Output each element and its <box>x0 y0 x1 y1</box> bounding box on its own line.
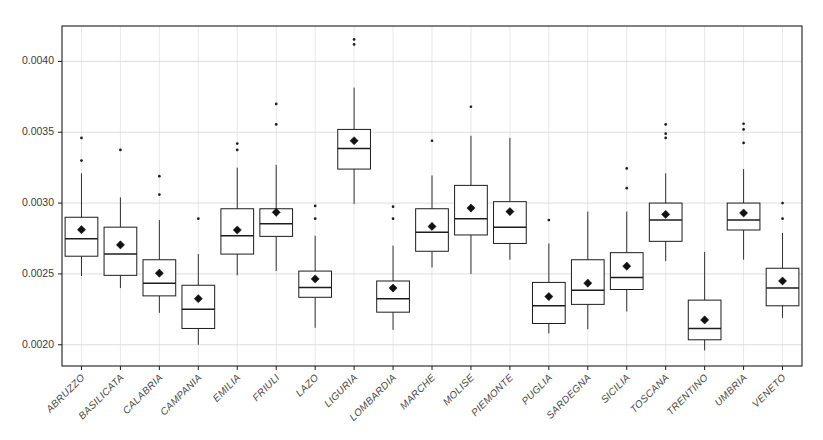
y-tick-label-4: 0.0040 <box>22 54 54 66</box>
outlier-point-1 <box>158 175 161 178</box>
box-iqr <box>649 203 682 241</box>
x-category-label-molise: MOLISE <box>441 372 477 408</box>
outlier-point-1 <box>664 132 667 135</box>
x-category-label-veneto: VENETO <box>750 372 788 410</box>
box-iqr <box>766 268 799 306</box>
y-tick-label-0: 0.0020 <box>22 338 54 350</box>
outlier-point-0 <box>236 149 239 152</box>
box-group-trentino[interactable] <box>688 252 721 350</box>
outlier-point-0 <box>80 159 83 162</box>
x-category-label-emilia: EMILIA <box>210 372 242 404</box>
outlier-point-1 <box>625 167 628 170</box>
box-iqr <box>65 217 98 256</box>
box-iqr <box>143 260 176 296</box>
box-group-sicilia[interactable] <box>610 167 643 311</box>
outlier-point-2 <box>664 123 667 126</box>
x-category-label-trentino: TRENTINO <box>664 372 710 418</box>
outlier-point-1 <box>314 205 317 208</box>
x-category-label-piemonte: PIEMONTE <box>469 372 515 418</box>
outlier-point-0 <box>314 217 317 220</box>
outlier-point-1 <box>781 202 784 205</box>
outlier-point-0 <box>197 217 200 220</box>
outlier-point-0 <box>742 142 745 145</box>
x-category-label-puglia: PUGLIA <box>519 372 554 407</box>
y-tick-label-2: 0.0030 <box>22 196 54 208</box>
outlier-point-1 <box>236 142 239 145</box>
x-category-label-sicilia: SICILIA <box>599 372 633 406</box>
x-category-label-liguria: LIGURIA <box>322 372 360 410</box>
x-category-label-lazo: LAZO <box>293 372 320 399</box>
x-category-label-marche: MARCHE <box>398 372 438 412</box>
box-group-umbria[interactable] <box>727 122 760 259</box>
box-iqr <box>182 285 215 328</box>
outlier-point-0 <box>119 149 122 152</box>
x-category-label-friuli: FRIULI <box>250 372 281 403</box>
outlier-point-1 <box>353 38 356 41</box>
outlier-point-0 <box>158 193 161 196</box>
x-category-label-campania: CAMPANIA <box>158 372 204 418</box>
outlier-point-1 <box>742 128 745 131</box>
y-tick-label-1: 0.0025 <box>22 267 54 279</box>
x-category-label-umbria: UMBRIA <box>712 372 749 409</box>
box-group-calabria[interactable] <box>143 175 176 313</box>
boxplot-canvas: 0.00200.00250.00300.00350.0040ABRUZZOBAS… <box>0 0 823 440</box>
box-group-sardegna[interactable] <box>571 212 604 330</box>
outlier-point-0 <box>392 217 395 220</box>
outlier-point-0 <box>353 43 356 46</box>
box-iqr <box>104 227 137 275</box>
boxplot-figure: 0.00200.00250.00300.00350.0040ABRUZZOBAS… <box>0 0 823 440</box>
outlier-point-0 <box>547 219 550 222</box>
outlier-point-2 <box>742 122 745 125</box>
outlier-point-0 <box>470 105 473 108</box>
box-group-veneto[interactable] <box>766 202 799 318</box>
box-group-piemonte[interactable] <box>494 138 527 260</box>
outlier-point-1 <box>275 103 278 106</box>
outlier-point-0 <box>431 139 434 142</box>
y-tick-label-3: 0.0035 <box>22 125 54 137</box>
outlier-point-1 <box>392 205 395 208</box>
outlier-point-0 <box>781 217 784 220</box>
box-iqr <box>610 253 643 290</box>
outlier-point-1 <box>80 137 83 140</box>
outlier-point-0 <box>625 187 628 190</box>
outlier-point-0 <box>275 123 278 126</box>
outlier-point-0 <box>664 137 667 140</box>
box-iqr <box>532 282 565 323</box>
